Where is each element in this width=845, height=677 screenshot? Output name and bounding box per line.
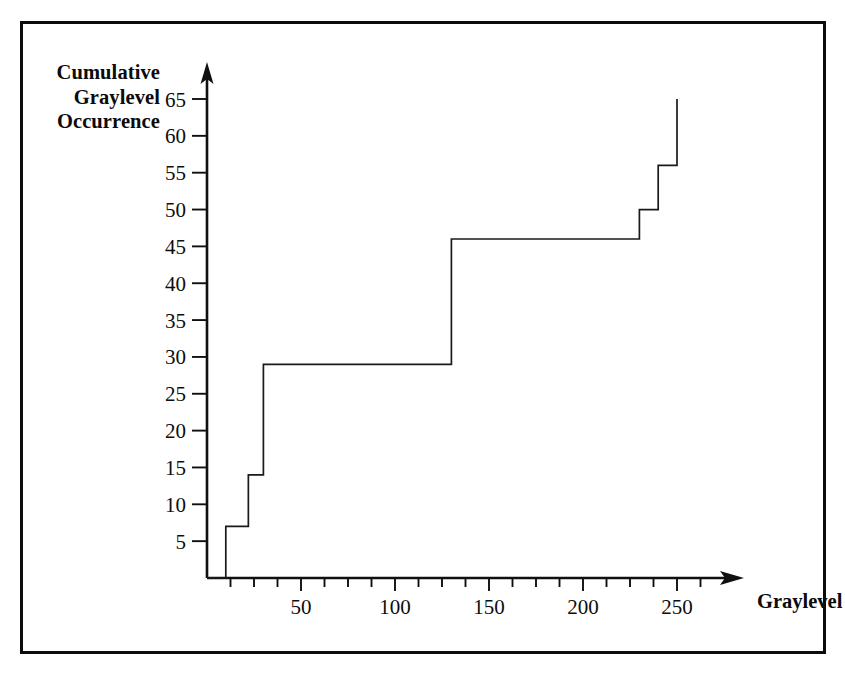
x-tick-label-100: 100 <box>379 595 411 619</box>
x-tick-label-200: 200 <box>567 595 599 619</box>
x-tick-label-50: 50 <box>291 595 312 619</box>
y-tick-label-65: 65 <box>165 88 186 112</box>
y-tick-label-60: 60 <box>165 124 186 148</box>
y-tick-label-20: 20 <box>165 419 186 443</box>
cumulative-step-curve <box>207 99 677 578</box>
y-tick-label-45: 45 <box>165 235 186 259</box>
y-axis-ticks <box>192 99 206 541</box>
y-tick-label-10: 10 <box>165 493 186 517</box>
x-axis-ticks <box>231 579 701 591</box>
y-tick-label-15: 15 <box>165 456 186 480</box>
axes-group <box>201 62 745 585</box>
y-tick-label-5: 5 <box>176 530 187 554</box>
y-tick-label-35: 35 <box>165 309 186 333</box>
y-tick-label-25: 25 <box>165 382 186 406</box>
y-tick-label-55: 55 <box>165 161 186 185</box>
y-tick-label-40: 40 <box>165 272 186 296</box>
x-tick-label-150: 150 <box>473 595 505 619</box>
y-tick-label-50: 50 <box>165 198 186 222</box>
figure-root: Cumulative Graylevel Occurrence 51015202… <box>0 0 845 677</box>
y-axis-tick-labels: 5101520253035404550556065 <box>165 88 186 554</box>
y-tick-label-30: 30 <box>165 345 186 369</box>
x-tick-label-250: 250 <box>661 595 693 619</box>
x-axis-tick-labels: 50100150200250 <box>291 595 693 619</box>
chart-plot-area: 5101520253035404550556065 50100150200250… <box>0 0 845 677</box>
x-axis-title: Graylevel <box>757 590 843 613</box>
